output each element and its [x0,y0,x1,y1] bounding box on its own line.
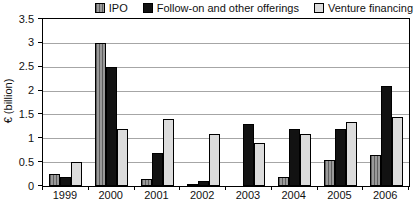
x-axis-tick-label: 2005 [317,189,363,201]
bar [71,162,82,186]
x-axis-tick-label: 2006 [362,189,408,201]
chart-legend: IPO Follow-on and other offerings Ventur… [0,1,413,14]
bar [278,177,289,187]
bar [49,174,60,186]
y-axis-tick-mark [38,137,42,138]
x-axis-tick-label: 2002 [179,189,225,201]
y-axis-tick-label: 3 [0,36,34,48]
x-axis-tick-mark [408,186,409,190]
legend-item-venture: Venture financing [314,2,413,14]
x-axis-tick-mark [88,186,89,190]
bar [370,155,381,186]
bar [289,129,300,186]
x-axis-tick-label: 1999 [42,189,88,201]
x-axis-tick-mark [225,186,226,190]
bar [381,86,392,186]
bar [300,134,311,187]
bar [106,67,117,186]
x-axis-tick-mark [271,186,272,190]
bar [346,122,357,186]
x-axis-tick-mark [317,186,318,190]
legend-item-followon: Follow-on and other offerings [143,2,299,14]
bar [60,177,71,187]
bar [254,143,265,186]
y-axis-tick-label: 0.5 [0,156,34,168]
legend-label-ipo: IPO [109,2,128,14]
bar [335,129,346,186]
y-axis-tick-label: 1 [0,132,34,144]
x-axis-tick-mark [179,186,180,190]
y-axis-tick-mark [38,42,42,43]
x-axis-tick-label: 2003 [225,189,271,201]
legend-label-venture: Venture financing [328,2,413,14]
x-axis-tick-mark [362,186,363,190]
y-axis-tick-mark [38,90,42,91]
legend-swatch-ipo-icon [95,3,105,13]
bar [243,124,254,186]
bar [392,117,403,186]
y-axis-tick-label: 2 [0,84,34,96]
bar [95,43,106,186]
bar [324,160,335,186]
legend-swatch-venture-icon [314,3,324,13]
legend-swatch-followon-icon [143,3,153,13]
bar [198,181,209,186]
bar [117,129,128,186]
y-axis-tick-label: 2.5 [0,60,34,72]
bar-chart-figure: IPO Follow-on and other offerings Ventur… [0,0,416,209]
bar [163,119,174,186]
x-axis-tick-mark [42,186,43,190]
legend-label-followon: Follow-on and other offerings [157,2,299,14]
plot-area [42,18,410,187]
bar [152,153,163,186]
x-axis-tick-mark [134,186,135,190]
x-axis-tick-label: 2001 [134,189,180,201]
y-axis-tick-label: 3.5 [0,13,34,25]
bar [187,184,198,186]
y-axis-tick-mark [38,161,42,162]
bar [141,179,152,186]
legend-item-ipo: IPO [95,2,128,14]
y-axis-tick-label: 1.5 [0,108,34,120]
x-axis-tick-label: 2004 [271,189,317,201]
y-axis-tick-mark [38,113,42,114]
y-axis-tick-mark [38,66,42,67]
x-axis-tick-label: 2000 [88,189,134,201]
y-axis-tick-label: 0 [0,180,34,192]
y-axis-tick-mark [38,18,42,19]
bar [209,134,220,187]
